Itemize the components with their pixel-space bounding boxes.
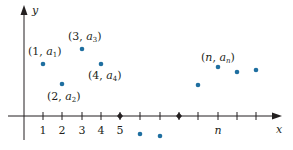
sequence-diagram: 1 2 3 4 5 n y x (1, a1) (2, a2) (3, a3) … xyxy=(0,0,293,150)
point-4 xyxy=(99,62,104,67)
point-7 xyxy=(158,134,163,139)
point-label-4: (4, a4) xyxy=(88,69,122,83)
point-label-2: (2, a2) xyxy=(47,90,81,104)
tick-label-1: 1 xyxy=(40,124,47,137)
zero-marker-icon xyxy=(117,113,123,120)
y-axis-label: y xyxy=(31,4,39,17)
y-axis-arrow-icon xyxy=(21,5,28,15)
axes xyxy=(8,12,276,140)
point-12 xyxy=(254,68,259,73)
x-axis-arrow-icon xyxy=(272,113,282,120)
x-tick-labels: 1 2 3 4 5 n xyxy=(40,124,222,137)
point-3 xyxy=(80,47,85,52)
x-axis-label: x xyxy=(276,123,283,136)
tick-label-5: 5 xyxy=(117,124,124,137)
tick-label-4: 4 xyxy=(98,124,105,137)
point-label-n: (n, an) xyxy=(201,51,235,65)
point-2 xyxy=(60,82,65,87)
point-label-3: (3, a3) xyxy=(68,30,102,44)
tick-label-3: 3 xyxy=(79,124,86,137)
tick-label-n: n xyxy=(214,124,221,137)
zero-marker-icon xyxy=(176,113,182,120)
point-6 xyxy=(138,132,143,137)
point-1 xyxy=(41,62,46,67)
tick-label-2: 2 xyxy=(59,124,66,137)
point-label-1: (1, a1) xyxy=(28,45,62,59)
point-11 xyxy=(235,70,240,75)
point-9 xyxy=(196,83,201,88)
point-n xyxy=(216,65,221,70)
